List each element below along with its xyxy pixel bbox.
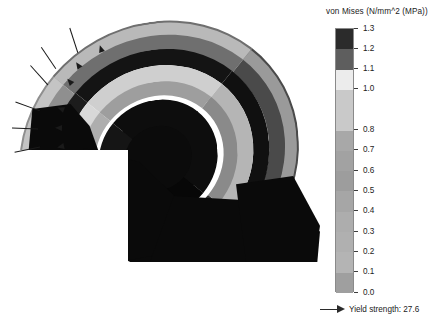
tick-label: 0.1: [363, 266, 374, 277]
tick-mark: [354, 190, 358, 191]
colorbar-gradient: [335, 28, 354, 292]
tick-mark: [354, 170, 358, 171]
tick-label: 0.4: [363, 205, 374, 216]
colorbar-band: [336, 212, 353, 232]
legend-title: von Mises (N/mm^2 (MPa)): [326, 6, 434, 17]
tick-label: 0.2: [363, 246, 374, 257]
colorbar-band: [336, 131, 353, 151]
tick-mark: [354, 68, 358, 69]
colorbar-band: [336, 171, 353, 191]
tick-mark: [354, 129, 358, 130]
tick-mark: [354, 149, 358, 150]
fea-model-viewport[interactable]: [0, 0, 318, 327]
yield-strength-marker: Yield strength: 27.6: [320, 303, 434, 317]
tick-label: 0.5: [363, 185, 374, 196]
colorbar-band: [336, 90, 353, 131]
colorbar-band: [336, 252, 353, 272]
tick-label: 0.6: [363, 165, 374, 176]
tick-mark: [354, 292, 358, 293]
colorbar-band: [336, 232, 353, 252]
tick-label: 0.0: [363, 287, 374, 298]
yield-strength-label: Yield strength: 27.6: [349, 304, 419, 316]
colorbar-band: [336, 151, 353, 171]
tick-mark: [354, 231, 358, 232]
tick-mark: [354, 251, 358, 252]
tick-mark: [354, 210, 358, 211]
tick-label: 1.3: [363, 23, 374, 34]
tick-label: 1.0: [363, 83, 374, 94]
colorbar-band: [336, 70, 353, 90]
arrow-right-icon: [337, 305, 345, 313]
result-plot-canvas: von Mises (N/mm^2 (MPa)) 1.31.21.11.00.8…: [0, 0, 434, 327]
tick-label: 0.7: [363, 144, 374, 155]
model-stage: [0, 0, 318, 327]
colorbar-band: [336, 273, 353, 293]
colorbar-band: [336, 49, 353, 69]
sector-mask-bottom: [108, 262, 318, 327]
tick-label: 1.1: [363, 63, 374, 74]
legend-panel: von Mises (N/mm^2 (MPa)) 1.31.21.11.00.8…: [318, 0, 434, 327]
colorbar-tick-list: 1.31.21.11.00.80.70.60.50.40.30.20.10.0: [354, 28, 434, 292]
colorbar-band: [336, 29, 353, 49]
tick-label: 0.8: [363, 124, 374, 135]
colorbar[interactable]: [335, 28, 354, 292]
tick-mark: [354, 88, 358, 89]
tick-mark: [354, 271, 358, 272]
tick-mark: [354, 28, 358, 29]
tick-label: 0.3: [363, 226, 374, 237]
tick-label: 1.2: [363, 43, 374, 54]
tick-mark: [354, 48, 358, 49]
colorbar-band: [336, 191, 353, 211]
